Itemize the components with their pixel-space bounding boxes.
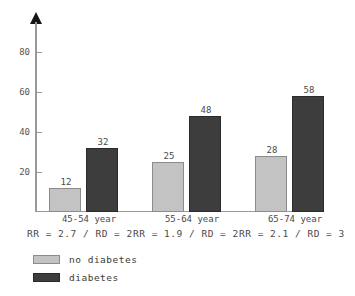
legend-item-no-diabetes: no diabetes <box>33 252 137 266</box>
y-tick-label-60: 60 <box>6 87 30 97</box>
legend-swatch-no-diabetes <box>33 255 60 264</box>
bar-diabetes-45-54: 32 <box>86 148 118 212</box>
bar-value-diabetes-55-64: 48 <box>190 105 222 115</box>
y-tick-label-40-wrap: 40 <box>2 127 30 137</box>
bar-diabetes-55-64: 48 <box>189 116 221 212</box>
bar-no-diabetes-45-54: 12 <box>49 188 81 212</box>
x-axis-label-55-64: 55-64 year <box>147 214 237 224</box>
legend-label-diabetes: diabetes <box>69 272 119 283</box>
y-tick-label-80: 80 <box>6 47 30 57</box>
bar-value-diabetes-65-74: 58 <box>293 85 325 95</box>
annotation-45-54: RR = 2.7 / RD = 20 <box>27 228 133 239</box>
y-tick-label-40: 40 <box>6 127 30 137</box>
legend-item-diabetes: diabetes <box>33 270 137 284</box>
x-axis-label-65-74: 65-74 year <box>250 214 340 224</box>
y-tick-label-80-wrap: 80 <box>2 47 30 57</box>
bar-value-diabetes-45-54: 32 <box>87 137 119 147</box>
y-tick-label-20-wrap: 20 <box>2 167 30 177</box>
legend: no diabetes diabetes <box>33 252 137 288</box>
x-axis-label-45-54: 45-54 year <box>44 214 134 224</box>
y-axis-line <box>35 22 37 212</box>
legend-label-no-diabetes: no diabetes <box>69 254 137 265</box>
y-tick-label-60-wrap: 60 <box>2 87 30 97</box>
bar-chart-figure: 20 40 60 80 12 32 25 <box>0 0 355 296</box>
annotation-55-64: RR = 1.9 / RD = 23 <box>133 228 239 239</box>
legend-swatch-diabetes <box>33 273 60 282</box>
annotation-65-74: RR = 2.1 / RD = 30 <box>239 228 345 239</box>
y-tick-mark-60 <box>35 92 42 93</box>
y-tick-mark-80 <box>35 52 42 53</box>
annotation-row: RR = 2.7 / RD = 20RR = 1.9 / RD = 23RR =… <box>27 228 345 239</box>
bar-value-no-diabetes-55-64: 25 <box>153 151 185 161</box>
annotation-row-clip: RR = 2.7 / RD = 20RR = 1.9 / RD = 23RR =… <box>0 228 355 244</box>
y-tick-mark-20 <box>35 172 42 173</box>
y-tick-label-20: 20 <box>6 167 30 177</box>
bar-value-no-diabetes-65-74: 28 <box>256 145 288 155</box>
y-tick-mark-40 <box>35 132 42 133</box>
bar-no-diabetes-65-74: 28 <box>255 156 287 212</box>
bar-value-no-diabetes-45-54: 12 <box>50 177 82 187</box>
bar-no-diabetes-55-64: 25 <box>152 162 184 212</box>
plot-area: 20 40 60 80 12 32 25 <box>0 0 355 232</box>
bar-diabetes-65-74: 58 <box>292 96 324 212</box>
